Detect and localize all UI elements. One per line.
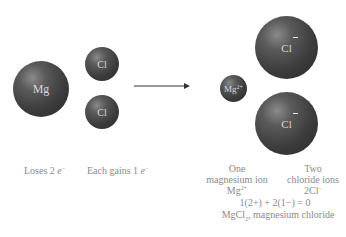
loses-electrons-caption: Loses 2 e− (24, 165, 65, 176)
gains-electron-caption: Each gains 1 e− (87, 165, 148, 176)
chloride-ion-1: Cl (255, 16, 318, 79)
chlorine-atom-label: Cl (97, 107, 106, 118)
magnesium-ion-label: Mg2+ (224, 84, 243, 94)
product-formula: MgCl2, magnesium chloride (210, 209, 346, 222)
chlorine-atom-1: Cl (85, 47, 119, 81)
chloride-ions-caption: Two chloride ions 2Cl− (280, 163, 346, 196)
magnesium-ion-caption: One magnesium ion Mg2+ (202, 163, 272, 196)
magnesium-ion: Mg2+ (220, 75, 247, 102)
magnesium-atom: Mg (13, 61, 69, 117)
charge-balance-equation: 1(2+) + 2(1−) = 0 (220, 197, 330, 208)
chloride-ion-2: Cl (255, 92, 318, 155)
magnesium-atom-label: Mg (33, 82, 50, 97)
chlorine-atom-2: Cl (85, 95, 119, 129)
chloride-ion-label: Cl (281, 118, 291, 130)
chlorine-atom-label: Cl (97, 59, 106, 70)
negative-charge-icon (293, 113, 298, 114)
negative-charge-icon (293, 37, 298, 38)
chloride-ion-label: Cl (281, 42, 291, 54)
reaction-arrow-icon (134, 81, 190, 91)
